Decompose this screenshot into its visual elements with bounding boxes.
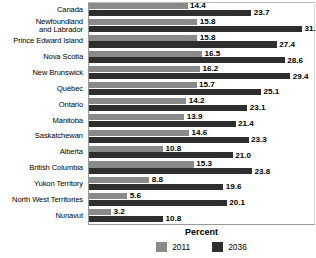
legend-label-2011: 2011 [172,242,190,252]
chart-row: Nova Scotia16.528.6 [0,50,316,66]
category-label: Saskatchewan [0,129,83,141]
bar-2036 [89,57,285,63]
bar-2011 [89,177,149,183]
bar-2011 [89,114,184,120]
bar-value-2036: 21.0 [235,152,251,160]
bar-2011 [89,161,194,167]
category-label: Manitoba [0,113,83,125]
chart-row: Nunavut3.210.8 [0,208,316,224]
row-bars: 15.323.8 [89,161,315,176]
bar-2011 [89,209,111,215]
row-bars: 8.819.6 [89,177,315,192]
bar-2036 [89,137,249,143]
chart-row: Yukon Territory8.819.6 [0,176,316,192]
bar-value-2036: 23.7 [254,9,270,17]
chart-row: British Columbia15.323.8 [0,160,316,176]
bar-value-2036: 27.4 [279,41,295,49]
legend-item-2036[interactable]: 2036 [212,242,247,252]
row-bars: 16.229.4 [89,66,315,81]
bar-value-2036: 20.1 [229,199,245,207]
chart-rows: Canada14.423.7Newfoundland and Labrador1… [0,2,316,224]
bar-2036 [89,26,302,32]
bar-value-2036: 29.4 [293,73,309,81]
bar-value-2036: 21.4 [238,120,254,128]
bar-2011 [89,98,186,104]
row-bars: 14.223.1 [89,98,315,113]
category-label: Prince Edward Island [0,34,83,46]
row-bars: 13.921.4 [89,114,315,129]
bar-2011 [89,19,197,25]
bar-chart: Canada14.423.7Newfoundland and Labrador1… [0,0,316,258]
chart-row: Alberta10.821.0 [0,145,316,161]
row-bars: 3.210.8 [89,209,315,224]
bar-2011 [89,82,197,88]
bar-value-2036: 25.1 [263,88,279,96]
row-bars: 15.725.1 [89,82,315,97]
category-label: Canada [0,2,83,14]
legend-swatch-icon-2036 [212,242,223,252]
legend-label-2036: 2036 [228,242,247,252]
bar-2011 [89,51,202,57]
bar-2036 [89,89,261,95]
chart-row: Saskatchewan14.623.3 [0,129,316,145]
bar-2036 [89,216,163,222]
category-label: Nunavut [0,208,83,220]
bar-2036 [89,41,277,47]
category-label: British Columbia [0,160,83,172]
row-bars: 14.423.7 [89,3,315,18]
bar-value-2036: 23.8 [254,168,270,176]
bar-value-2036: 28.6 [287,57,303,65]
row-bars: 15.831.10 [89,18,315,33]
bar-value-2036: 19.6 [226,183,242,191]
legend-item-2011[interactable]: 2011 [156,242,190,252]
bar-2036 [89,184,223,190]
chart-row: Québec15.725.1 [0,81,316,97]
bar-2011 [89,193,127,199]
chart-row: Canada14.423.7 [0,2,316,18]
category-label: Nova Scotia [0,50,83,62]
legend-swatch-icon-2011 [156,242,167,252]
bar-value-2036: 31.10 [304,25,316,33]
chart-row: New Brunswick16.229.4 [0,65,316,81]
category-label: Alberta [0,145,83,157]
bar-2036 [89,168,252,174]
bar-2036 [89,121,236,127]
row-bars: 5.620.1 [89,193,315,208]
category-label: Yukon Territory [0,176,83,188]
bar-2011 [89,146,163,152]
row-bars: 10.821.0 [89,145,315,160]
bar-2011 [89,130,189,136]
bar-2036 [89,73,290,79]
category-label: New Brunswick [0,65,83,77]
chart-row: Manitoba13.921.4 [0,113,316,129]
bar-2036 [89,105,247,111]
bar-2036 [89,200,227,206]
category-label: Newfoundland and Labrador [0,18,83,34]
category-label: North West Territories [0,192,83,204]
bar-value-2036: 23.1 [250,104,266,112]
bar-2011 [89,66,200,72]
row-bars: 15.827.4 [89,34,315,49]
bar-2036 [89,10,251,16]
bar-2011 [89,3,188,9]
bar-2036 [89,152,233,158]
chart-row: Ontario14.223.1 [0,97,316,113]
chart-row: Prince Edward Island15.827.4 [0,34,316,50]
x-axis-title: Percent [88,227,315,237]
row-bars: 16.528.6 [89,50,315,65]
row-bars: 14.623.3 [89,129,315,144]
bar-value-2036: 10.8 [165,215,181,223]
category-label: Ontario [0,97,83,109]
chart-row: North West Territories5.620.1 [0,192,316,208]
chart-legend: 2011 2036 [88,242,315,252]
bar-value-2036: 23.3 [251,136,267,144]
category-label: Québec [0,81,83,93]
bar-2011 [89,35,197,41]
chart-row: Newfoundland and Labrador15.831.10 [0,18,316,34]
